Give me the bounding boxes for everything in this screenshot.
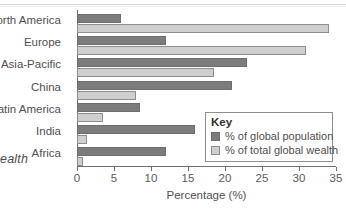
page-top-rule-secondary — [0, 6, 346, 7]
category-label: India — [0, 126, 61, 137]
category-label: China — [0, 82, 61, 93]
chart-figure: ealth North AmericaEuropeAsia-PacificChi… — [0, 0, 346, 210]
legend-item-population: % of global population — [211, 130, 327, 143]
x-tick-label: 0 — [62, 172, 92, 184]
legend-swatch-wealth-icon — [211, 146, 220, 155]
x-tick — [114, 167, 115, 171]
bar-population — [77, 147, 166, 156]
x-tick-label: 15 — [173, 172, 203, 184]
x-tick-label: 20 — [210, 172, 240, 184]
x-tick-label: 5 — [99, 172, 129, 184]
category-label: Latin America — [0, 104, 61, 115]
x-tick — [299, 167, 300, 171]
bar-group: Asia-Pacific — [77, 58, 336, 78]
bar-group: China — [77, 81, 336, 101]
chart-legend: Key % of global population % of total gl… — [205, 112, 333, 162]
x-tick — [188, 167, 189, 171]
bar-population — [77, 103, 140, 112]
bar-wealth — [77, 46, 306, 55]
bar-population — [77, 58, 247, 67]
bar-wealth — [77, 135, 87, 144]
bar-wealth — [77, 157, 83, 166]
bar-wealth — [77, 24, 329, 33]
category-label: Asia-Pacific — [0, 59, 61, 70]
x-tick — [225, 167, 226, 171]
bar-group: Europe — [77, 36, 336, 56]
category-label: North America — [0, 15, 61, 26]
legend-title: Key — [211, 116, 327, 129]
category-label: Africa — [0, 148, 61, 159]
category-label: Europe — [0, 37, 61, 48]
bar-population — [77, 81, 232, 90]
bar-population — [77, 125, 195, 134]
legend-swatch-population-icon — [211, 132, 220, 141]
bar-wealth — [77, 68, 214, 77]
x-tick — [336, 167, 337, 171]
bar-wealth — [77, 91, 136, 100]
x-tick-label: 35 — [321, 172, 346, 184]
x-tick-label: 25 — [247, 172, 277, 184]
x-tick — [151, 167, 152, 171]
bar-group: North America — [77, 14, 336, 34]
x-tick — [262, 167, 263, 171]
bar-population — [77, 14, 121, 23]
legend-label-population: % of global population — [225, 130, 333, 143]
bar-population — [77, 36, 166, 45]
legend-label-wealth: % of total global wealth — [225, 144, 338, 157]
page-top-rule — [0, 4, 346, 5]
legend-item-wealth: % of total global wealth — [211, 144, 327, 157]
x-tick-label: 30 — [284, 172, 314, 184]
bar-wealth — [77, 113, 103, 122]
x-tick — [77, 167, 78, 171]
x-tick-label: 10 — [136, 172, 166, 184]
x-axis-title: Percentage (%) — [77, 189, 336, 201]
